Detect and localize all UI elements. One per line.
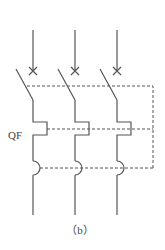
pole-2: [58, 30, 89, 215]
circuit-breaker-diagram: QF （b）: [0, 0, 165, 250]
pole-3: [100, 30, 131, 215]
magnetic-release: [33, 161, 40, 175]
linkage-top: [27, 86, 153, 168]
device-label: QF: [8, 129, 22, 141]
thermal-release: [117, 100, 131, 161]
thermal-release: [75, 100, 89, 161]
thermal-release: [33, 100, 47, 161]
pole-1: [16, 30, 47, 215]
caption: （b）: [66, 224, 94, 236]
mechanical-linkage: [27, 86, 153, 168]
